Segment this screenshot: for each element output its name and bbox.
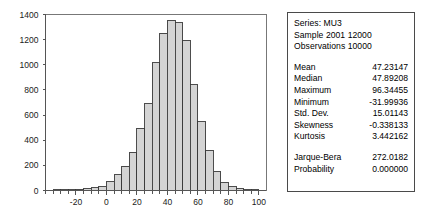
histogram-bar	[145, 104, 153, 191]
x-axis-tick-marks	[46, 191, 259, 196]
stats-spacer-bottom	[294, 143, 408, 152]
statistic-value: 96.34455	[372, 85, 408, 97]
stats-spacer-top	[294, 53, 408, 62]
moment-statistics-list: Mean47.23147Median47.89208Maximum96.3445…	[294, 62, 408, 143]
x-tick-label: 40	[163, 197, 173, 207]
histogram-bar	[137, 128, 145, 190]
statistic-label: Median	[294, 73, 322, 85]
statistic-value: -0.338133	[369, 120, 408, 132]
y-tick-label: 200	[24, 160, 38, 170]
descriptive-statistics-panel: Series: MU3 Sample 2001 12000 Observatio…	[287, 12, 415, 192]
histogram-statistics-figure: 0200400600800100012001400 -2002040608010…	[0, 0, 427, 216]
test-statistic-value: 272.0182	[372, 152, 408, 164]
test-statistic-row: Probability0.000000	[294, 164, 408, 176]
histogram-chart: 0200400600800100012001400 -2002040608010…	[0, 0, 272, 216]
statistic-label: Minimum	[294, 97, 329, 109]
histogram-bar	[122, 166, 130, 190]
statistic-label: Kurtosis	[294, 131, 325, 143]
histogram-bar	[152, 63, 160, 191]
histogram-bar	[183, 40, 191, 190]
test-statistic-row: Jarque-Bera272.0182	[294, 152, 408, 164]
y-tick-label: 400	[24, 135, 38, 145]
histogram-svg: 0200400600800100012001400 -2002040608010…	[0, 0, 272, 216]
statistic-row: Kurtosis3.442162	[294, 131, 408, 143]
statistic-label: Mean	[294, 62, 316, 74]
y-axis-tick-labels: 0200400600800100012001400	[20, 10, 39, 196]
y-tick-label: 0	[34, 186, 39, 196]
histogram-bar	[206, 150, 214, 190]
y-tick-label: 1000	[20, 60, 39, 70]
histogram-bar	[114, 175, 122, 191]
normality-test-list: Jarque-Bera272.0182Probability0.000000	[294, 152, 408, 175]
histogram-bar	[228, 187, 236, 191]
statistic-label: Skewness	[294, 120, 333, 132]
histogram-bar	[99, 187, 107, 191]
statistic-value: 47.89208	[372, 73, 408, 85]
statistic-row: Mean47.23147	[294, 62, 408, 74]
statistic-value: -31.99936	[369, 97, 408, 109]
y-tick-label: 800	[24, 85, 38, 95]
statistic-label: Maximum	[294, 85, 331, 97]
statistic-row: Median47.89208	[294, 73, 408, 85]
histogram-bar	[175, 23, 183, 191]
y-tick-label: 600	[24, 110, 38, 120]
statistic-row: Skewness-0.338133	[294, 120, 408, 132]
histogram-bar	[190, 85, 198, 191]
statistic-value: 3.442162	[372, 131, 408, 143]
y-tick-label: 1400	[20, 10, 39, 20]
statistic-row: Maximum96.34455	[294, 85, 408, 97]
histogram-bar	[221, 183, 229, 191]
statistic-value: 47.23147	[372, 62, 408, 74]
observations-line: Observations 10000	[294, 41, 408, 53]
histogram-bars	[53, 20, 259, 190]
statistic-row: Std. Dev.15.01143	[294, 108, 408, 120]
test-statistic-label: Jarque-Bera	[294, 152, 341, 164]
x-tick-label: 80	[224, 197, 234, 207]
sample-range-line: Sample 2001 12000	[294, 30, 408, 42]
x-tick-label: -20	[70, 197, 83, 207]
statistic-label: Std. Dev.	[294, 108, 329, 120]
test-statistic-label: Probability	[294, 164, 334, 176]
x-tick-label: 100	[252, 197, 266, 207]
histogram-bar	[160, 33, 168, 190]
statistic-row: Minimum-31.99936	[294, 97, 408, 109]
y-tick-label: 1200	[20, 35, 39, 45]
series-name-line: Series: MU3	[294, 18, 408, 30]
x-tick-label: 20	[132, 197, 142, 207]
statistic-value: 15.01143	[373, 108, 408, 120]
histogram-bar	[167, 20, 175, 190]
histogram-bar	[129, 152, 137, 190]
histogram-bar	[213, 171, 221, 190]
x-tick-label: 60	[193, 197, 203, 207]
test-statistic-value: 0.000000	[372, 164, 408, 176]
x-axis-tick-labels: -20020406080100	[70, 197, 266, 207]
histogram-bar	[198, 122, 206, 191]
histogram-bar	[106, 182, 114, 191]
x-tick-label: 0	[104, 197, 109, 207]
